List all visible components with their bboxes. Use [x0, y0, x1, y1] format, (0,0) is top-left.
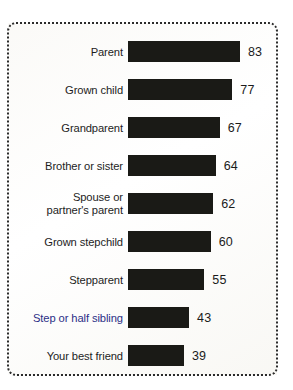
bar-category-label: Grown stepchild [11, 223, 123, 261]
bar-category-label: Your best friend [11, 337, 123, 375]
bar-category-label: Stepparent [11, 261, 123, 299]
bar [128, 79, 232, 100]
bar [128, 231, 211, 252]
bar-value-label: 62 [221, 185, 235, 223]
bar-row: Brother or sister64 [7, 147, 278, 185]
bar [128, 307, 189, 328]
bar-category-label: Brother or sister [11, 147, 123, 185]
bar-value-label: 67 [228, 109, 242, 147]
bar [128, 117, 220, 138]
bar-value-label: 83 [248, 33, 262, 71]
bar [128, 193, 213, 214]
chart-plot-area: Parent83Grown child77Grandparent67Brothe… [7, 22, 278, 376]
bar-category-label: Parent [11, 33, 123, 71]
horizontal-bar-chart: Parent83Grown child77Grandparent67Brothe… [0, 0, 293, 390]
bar-row: Spouse or partner's parent62 [7, 185, 278, 223]
bar-row: Stepparent55 [7, 261, 278, 299]
bar-value-label: 55 [212, 261, 226, 299]
bar-row: Your best friend39 [7, 337, 278, 375]
bar [128, 345, 184, 366]
bar-value-label: 39 [192, 337, 206, 375]
bar-category-label: Grown child [11, 71, 123, 109]
bar-row: Grandparent67 [7, 109, 278, 147]
bar-value-label: 43 [197, 299, 211, 337]
bar-category-label: Step or half sibling [11, 299, 123, 337]
bar-value-label: 77 [240, 71, 254, 109]
bar-value-label: 60 [219, 223, 233, 261]
bar-category-label: Grandparent [11, 109, 123, 147]
bar-row: Grown child77 [7, 71, 278, 109]
bar-category-label: Spouse or partner's parent [11, 185, 123, 223]
bar-row: Grown stepchild60 [7, 223, 278, 261]
bar-value-label: 64 [224, 147, 238, 185]
bar-row: Parent83 [7, 33, 278, 71]
bar [128, 41, 240, 62]
bar-row: Step or half sibling43 [7, 299, 278, 337]
bar [128, 269, 204, 290]
bar [128, 155, 216, 176]
